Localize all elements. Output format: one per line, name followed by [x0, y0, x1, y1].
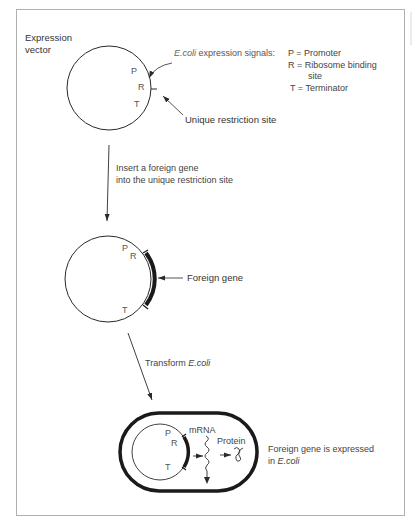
protein-label: Protein [217, 436, 246, 446]
result-label-2: in E.coli [268, 456, 301, 466]
legend-terminator: T = Terminator [290, 83, 348, 93]
transform-label: Transform E.coli [145, 358, 211, 368]
mrna-label: mRNA [189, 425, 216, 435]
marker-r-2: R [130, 251, 137, 261]
signals-label: E.coli expression signals: [174, 48, 275, 58]
marker-r: R [138, 82, 145, 92]
legend-promoter: P = Promoter [288, 48, 341, 58]
marker-p-3: P [165, 428, 171, 438]
signals-suffix: expression signals: [196, 48, 275, 58]
marker-t-3: T [165, 462, 171, 472]
insert-gene-label-1: Insert a foreign gene [116, 163, 199, 173]
expression-vector-label-2: vector [25, 44, 51, 55]
foreign-gene-label: Foreign gene [187, 272, 243, 283]
expression-vector-diagram: Expression vector P R T E.coli expressio… [0, 0, 417, 526]
marker-r-3: R [171, 438, 178, 448]
insert-gene-label-2: into the unique restriction site [116, 175, 233, 185]
legend-ribosome-cont: site [308, 71, 322, 81]
legend-ribosome: R = Ribosome binding [288, 60, 377, 70]
signals-organism: E.coli [174, 48, 197, 58]
marker-p-2: P [122, 243, 128, 253]
result-prefix: in [268, 456, 278, 466]
marker-p: P [131, 66, 137, 76]
transform-organism: E.coli [188, 358, 211, 368]
result-organism: E.coli [278, 456, 301, 466]
transform-prefix: Transform [145, 358, 188, 368]
result-label-1: Foreign gene is expressed [268, 444, 374, 454]
expression-vector-label-1: Expression [25, 32, 72, 43]
restriction-site-label: Unique restriction site [185, 114, 276, 125]
marker-t: T [134, 99, 140, 109]
marker-t-2: T [122, 305, 128, 315]
